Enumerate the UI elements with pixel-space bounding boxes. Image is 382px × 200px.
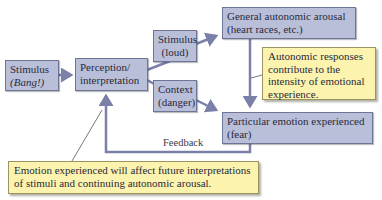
callout-emotion-line2: of stimuli and continuing autonomic arou…	[14, 177, 253, 190]
node-perception-line2: interpretation	[80, 74, 143, 87]
arrow-loud-to-arousal	[196, 36, 216, 44]
leader-emotion-callout	[72, 110, 102, 161]
node-stimulus-loud: Stimulus (loud)	[153, 30, 197, 62]
callout-autonomic-responses: Autonomic responses contribute to the in…	[262, 47, 376, 100]
callout-autonomic-line4: experience.	[268, 88, 370, 101]
node-stimulus-bang-subtitle: (Bang!)	[10, 76, 54, 89]
callout-autonomic-line3: intensity of emotional	[268, 75, 370, 88]
node-perception: Perception/ interpretation	[75, 58, 148, 91]
leader-autonomic-callout	[251, 75, 262, 78]
node-particular-emotion-title: Particular emotion experienced	[227, 115, 368, 128]
node-context-title: Context	[158, 83, 192, 96]
node-particular-emotion: Particular emotion experienced (fear)	[222, 112, 373, 144]
line-perception-to-loud	[147, 61, 170, 70]
callout-autonomic-line1: Autonomic responses	[268, 50, 370, 63]
node-general-arousal: General autonomic arousal (heart races, …	[222, 7, 356, 39]
node-stimulus-bang-title: Stimulus	[10, 63, 54, 76]
node-general-arousal-title: General autonomic arousal	[227, 10, 351, 23]
node-stimulus-bang: Stimulus (Bang!)	[5, 60, 59, 91]
arrow-context-to-emotion	[196, 100, 216, 110]
node-context: Context (danger)	[153, 80, 197, 112]
node-perception-line1: Perception/	[80, 61, 143, 74]
callout-emotion-line1: Emotion experienced will affect future i…	[14, 164, 253, 177]
node-particular-emotion-subtitle: (fear)	[227, 128, 368, 141]
callout-autonomic-line2: contribute to the	[268, 63, 370, 76]
node-stimulus-loud-title: Stimulus	[158, 33, 192, 46]
feedback-label: Feedback	[163, 137, 203, 148]
node-stimulus-loud-subtitle: (loud)	[158, 46, 192, 59]
node-general-arousal-subtitle: (heart races, etc.)	[227, 23, 351, 36]
callout-emotion-experienced: Emotion experienced will affect future i…	[8, 161, 259, 194]
node-context-subtitle: (danger)	[158, 96, 192, 109]
